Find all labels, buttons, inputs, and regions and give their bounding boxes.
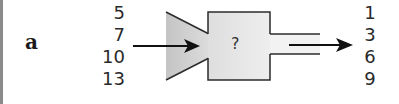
output-values: 1 3 6 9 <box>358 2 382 90</box>
output-value: 1 <box>358 2 382 24</box>
output-value: 6 <box>358 46 382 68</box>
unknown-rule-mark: ? <box>231 34 240 53</box>
output-value: 3 <box>358 24 382 46</box>
function-machine <box>0 0 399 104</box>
output-value: 9 <box>358 68 382 90</box>
